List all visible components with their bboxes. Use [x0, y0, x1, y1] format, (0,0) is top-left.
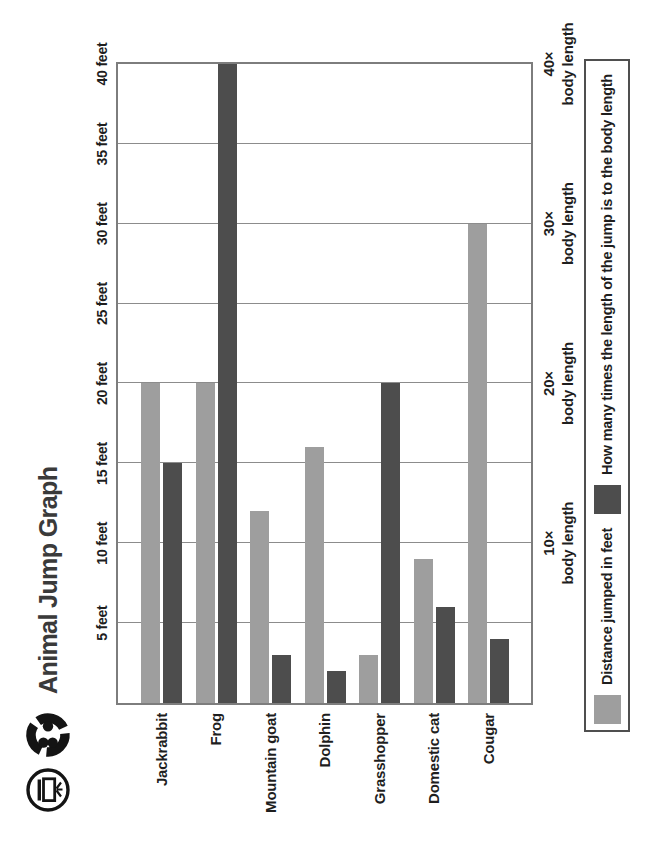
value-axis-tick: 30 feet — [92, 179, 112, 269]
bar-grasshopper-ratio — [381, 384, 400, 704]
bar-grasshopper-distance — [359, 655, 378, 703]
value-axis-tick: 35 feet — [92, 99, 112, 189]
group-swirl-icon — [24, 711, 72, 759]
value-axis-tick: 40 feet — [92, 19, 112, 109]
bar-frog-ratio — [218, 64, 237, 703]
body-length-multiplier: 40× — [539, 4, 558, 124]
category-label: Mountain goat — [261, 713, 281, 845]
category-label: Dolphin — [315, 713, 335, 845]
value-axis-tick: 10 feet — [92, 498, 112, 588]
category-label: Domestic cat — [424, 713, 444, 845]
category-label: Cougar — [479, 713, 499, 845]
bar-domestic-cat-ratio — [436, 607, 455, 703]
category-label: Jackrabbit — [152, 713, 172, 845]
legend-swatch-ratio — [594, 485, 621, 514]
body-length-multiplier: 30× — [539, 164, 558, 284]
bar-mountain-goat-ratio — [272, 655, 291, 703]
door-arrow-icon — [24, 766, 72, 814]
bar-mountain-goat-distance — [250, 511, 269, 703]
value-axis-tick: 5 feet — [92, 578, 112, 668]
legend: Distance jumped in feet How many times t… — [584, 59, 630, 732]
body-length-text: body length — [558, 483, 577, 603]
value-axis-tick: 15 feet — [92, 418, 112, 508]
legend-label-distance: Distance jumped in feet — [599, 528, 615, 685]
scanned-page: Animal Jump Graph 5 feet 10 feet 15 feet… — [0, 0, 653, 853]
value-axis-tick: 20 feet — [92, 339, 112, 429]
gridline — [118, 143, 531, 144]
legend-label-ratio: How many times the length of the jump is… — [599, 74, 615, 475]
body-length-axis-label: 10× body length — [539, 483, 577, 603]
bar-jackrabbit-distance — [141, 384, 160, 704]
body-length-multiplier: 10× — [539, 483, 558, 603]
plot-area — [116, 62, 533, 705]
body-length-multiplier: 20× — [539, 324, 558, 444]
bar-dolphin-ratio — [327, 671, 346, 703]
body-length-text: body length — [558, 164, 577, 284]
body-length-text: body length — [558, 324, 577, 444]
bar-cougar-ratio — [490, 639, 509, 703]
header: Animal Jump Graph — [24, 467, 72, 814]
body-length-axis-label: 20× body length — [539, 324, 577, 444]
legend-swatch-distance — [594, 695, 621, 724]
rotated-chart-canvas: Animal Jump Graph 5 feet 10 feet 15 feet… — [0, 0, 653, 853]
category-label: Grasshopper — [370, 713, 390, 845]
value-axis-tick: 25 feet — [92, 259, 112, 349]
chart-title: Animal Jump Graph — [34, 467, 63, 694]
category-label: Frog — [206, 713, 226, 845]
bar-cougar-distance — [468, 224, 487, 703]
bar-jackrabbit-ratio — [163, 463, 182, 703]
body-length-axis-label: 40× body length — [539, 4, 577, 124]
body-length-text: body length — [558, 4, 577, 124]
bar-frog-distance — [196, 384, 215, 704]
body-length-axis-label: 30× body length — [539, 164, 577, 284]
bar-domestic-cat-distance — [414, 559, 433, 703]
bar-dolphin-distance — [305, 447, 324, 703]
